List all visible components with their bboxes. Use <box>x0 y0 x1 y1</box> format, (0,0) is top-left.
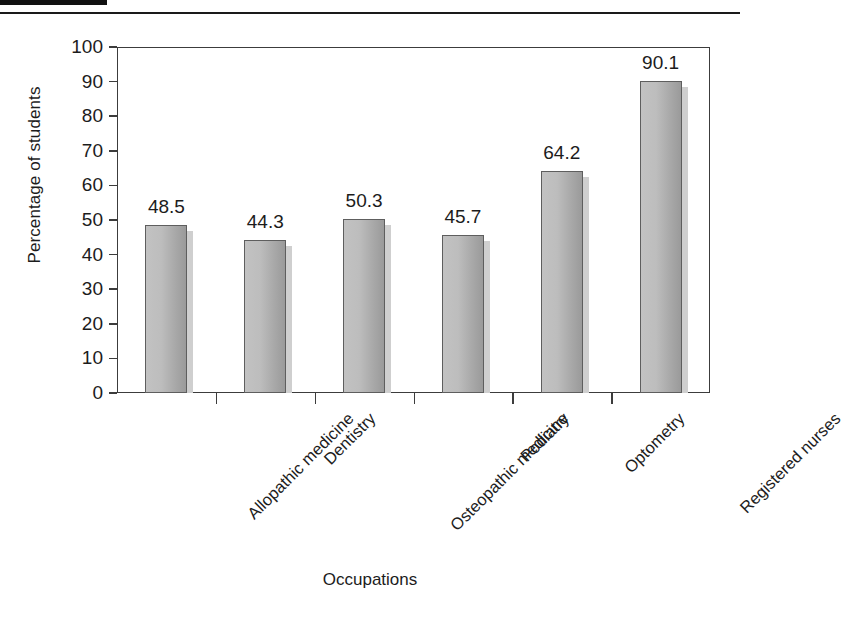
bar-value-label: 64.2 <box>522 143 602 162</box>
y-axis-tick-mark <box>109 185 117 187</box>
y-axis-tick-mark <box>109 81 117 83</box>
x-axis-tick-mark <box>216 393 218 404</box>
y-axis-tick-label: 10 <box>57 348 103 367</box>
y-axis-tick-mark <box>109 392 117 394</box>
bar-value-label: 45.7 <box>423 207 503 226</box>
bar <box>640 81 682 393</box>
y-axis-tick-label: 0 <box>57 383 103 402</box>
y-axis-tick-mark <box>109 219 117 221</box>
x-axis-category-label: Allopathic medicine <box>244 409 358 523</box>
bar-value-label: 48.5 <box>126 197 206 216</box>
y-axis-tick-label: 100 <box>57 37 103 56</box>
y-axis-tick-mark <box>109 358 117 360</box>
y-axis-tick-mark <box>109 46 117 48</box>
x-axis-tick-mark <box>611 393 613 404</box>
y-axis-tick-label: 30 <box>57 279 103 298</box>
header-horizontal-rule <box>0 12 740 14</box>
bar <box>244 240 286 393</box>
y-axis-tick-mark <box>109 254 117 256</box>
bar <box>145 225 187 393</box>
bar <box>541 171 583 393</box>
x-axis-category-label: Optometry <box>620 409 688 477</box>
y-axis-title: Percentage of students <box>25 55 45 295</box>
y-axis-tick-label: 20 <box>57 314 103 333</box>
y-axis-tick-mark <box>109 115 117 117</box>
bar-value-label: 90.1 <box>621 53 701 72</box>
y-axis-tick-mark <box>109 288 117 290</box>
y-axis-tick-label: 80 <box>57 106 103 125</box>
x-axis-tick-mark <box>512 393 514 404</box>
bar-value-label: 50.3 <box>324 191 404 210</box>
plot-area-frame <box>117 47 710 393</box>
header-black-tab <box>0 0 107 5</box>
y-axis-tick-label: 60 <box>57 175 103 194</box>
x-axis-title: Occupations <box>0 570 740 590</box>
y-axis-tick-label: 50 <box>57 210 103 229</box>
y-axis-tick-mark <box>109 150 117 152</box>
x-axis-tick-mark <box>315 393 317 404</box>
x-axis-tick-mark <box>414 393 416 404</box>
y-axis-tick-label: 70 <box>57 141 103 160</box>
bar <box>442 235 484 393</box>
y-axis-tick-label: 40 <box>57 245 103 264</box>
x-axis-category-label: Registered nurses <box>736 409 844 517</box>
y-axis-tick-mark <box>109 323 117 325</box>
bar-value-label: 44.3 <box>225 212 305 231</box>
y-axis-tick-label: 90 <box>57 72 103 91</box>
bar <box>343 219 385 393</box>
x-axis-category-label: Podiatry <box>517 409 573 465</box>
